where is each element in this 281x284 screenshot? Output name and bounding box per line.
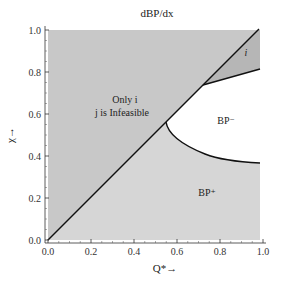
svg-text:0.8: 0.8 [214,246,227,257]
svg-text:0.0: 0.0 [42,246,55,257]
region-only-i-label: Only i [112,94,138,105]
svg-text:0.4: 0.4 [29,151,42,162]
region-j-infeasible-label: j is Infeasible [94,107,149,118]
svg-text:0.6: 0.6 [29,109,42,120]
region-bp-minus-label: BP⁻ [217,115,235,126]
y-tick-labels: 0.0 0.2 0.4 0.6 0.8 1.0 [29,25,42,246]
chart: 0.0 0.2 0.4 0.6 0.8 1.0 0.0 0.2 0.4 0.6 … [0,0,281,284]
svg-text:0.2: 0.2 [85,246,98,257]
chart-title: dBP/dx [140,7,174,19]
svg-text:0.0: 0.0 [29,235,42,246]
svg-text:1.0: 1.0 [29,25,42,36]
svg-text:0.2: 0.2 [29,193,42,204]
svg-text:0.6: 0.6 [171,246,184,257]
region-i-label: i [245,47,248,58]
y-axis-label: χ→ [4,127,16,144]
x-tick-labels: 0.0 0.2 0.4 0.6 0.8 1.0 [42,246,270,257]
svg-text:0.4: 0.4 [128,246,141,257]
region-bp-plus-label: BP⁺ [198,187,216,198]
svg-text:1.0: 1.0 [257,246,270,257]
svg-text:0.8: 0.8 [29,67,42,78]
x-axis-label: Q*→ [153,262,177,274]
